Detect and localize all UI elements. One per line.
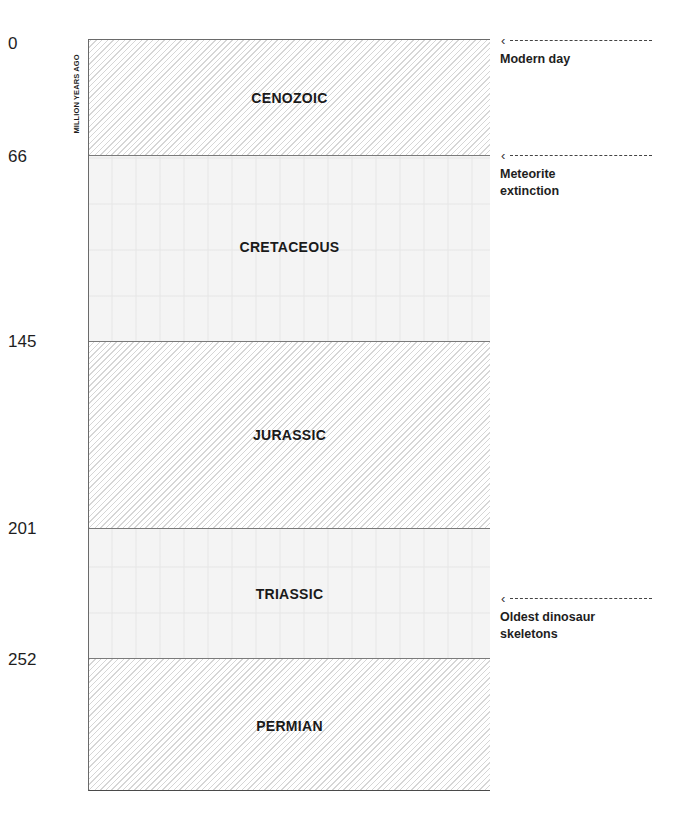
period-band-cretaceous: CRETACEOUS: [89, 155, 490, 341]
dashed-arrow: ‹: [496, 598, 656, 608]
period-label-permian: PERMIAN: [89, 718, 490, 734]
annotation-text: Oldest dinosaur skeletons: [500, 609, 650, 643]
tick-label-201: 201: [8, 520, 36, 537]
period-band-jurassic: JURASSIC: [89, 341, 490, 528]
period-label-jurassic: JURASSIC: [89, 427, 490, 443]
tick-label-66: 66: [8, 148, 27, 165]
tick-label-145: 145: [8, 333, 36, 350]
annotation-oldest-dinosaur-skeletons: ‹ Oldest dinosaur skeletons: [496, 598, 656, 608]
period-band-cenozoic: CENOZOIC: [89, 39, 490, 155]
annotation-text: Modern day: [500, 51, 660, 68]
axis-title: MILLION YEARS AGO: [72, 54, 81, 133]
tick-label-0: 0: [8, 35, 17, 52]
period-band-permian: PERMIAN: [89, 658, 490, 790]
tick-label-252: 252: [8, 651, 36, 668]
left-arrow-icon: ‹: [501, 592, 505, 605]
timeline-column: CENOZOIC CRETACEOUS JURASSIC TRIASSIC PE…: [88, 39, 490, 791]
annotation-modern-day: ‹ Modern day: [496, 40, 656, 50]
left-arrow-icon: ‹: [501, 34, 505, 47]
period-label-cenozoic: CENOZOIC: [89, 90, 490, 106]
dashed-arrow: ‹: [496, 155, 656, 165]
left-arrow-icon: ‹: [501, 149, 505, 162]
period-label-triassic: TRIASSIC: [89, 586, 490, 602]
dashed-arrow: ‹: [496, 40, 656, 50]
dashed-line: [510, 598, 652, 599]
dashed-line: [510, 155, 652, 156]
dashed-line: [510, 40, 652, 41]
period-label-cretaceous: CRETACEOUS: [89, 239, 490, 255]
annotation-meteorite-extinction: ‹ Meteorite extinction: [496, 155, 656, 165]
annotation-text: Meteorite extinction: [500, 166, 610, 200]
period-band-triassic: TRIASSIC: [89, 528, 490, 658]
